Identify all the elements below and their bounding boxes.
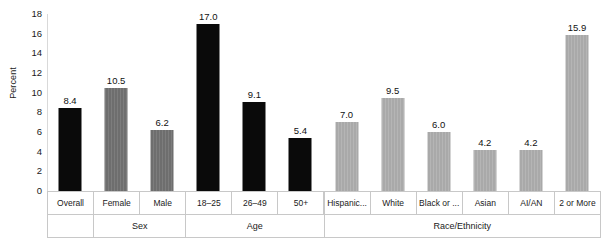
bar-slot: 15.9 — [554, 14, 600, 191]
category-cell: Female — [93, 191, 140, 215]
category-axis-table: OverallFemaleMale18–2526–4950+Hispanic..… — [47, 191, 600, 238]
y-axis-tick-12: 12 — [31, 68, 42, 78]
bar[interactable] — [519, 150, 542, 191]
y-axis-tick-14: 14 — [31, 48, 42, 58]
group-cell: Race/Ethnicity — [324, 214, 602, 238]
category-cell: 50+ — [277, 191, 324, 215]
category-cell: Black or ... — [416, 191, 463, 215]
bar-value-label: 6.0 — [432, 120, 445, 130]
bar-value-label: 4.2 — [478, 138, 491, 148]
bar-value-label: 17.0 — [199, 12, 218, 22]
category-cell: Overall — [47, 191, 94, 215]
bar-slot: 4.2 — [462, 14, 508, 191]
y-axis-tick-16: 16 — [31, 29, 42, 39]
y-axis-tick-0: 0 — [37, 186, 42, 196]
bar-value-label: 7.0 — [340, 110, 353, 120]
bar[interactable] — [289, 138, 312, 191]
bar-slot: 6.2 — [139, 14, 185, 191]
category-cell: Hispanic... — [324, 191, 371, 215]
bar-value-label: 10.5 — [107, 76, 126, 86]
category-cell: 18–25 — [185, 191, 232, 215]
category-cell: AI/AN — [508, 191, 555, 215]
bar-slot: 8.4 — [47, 14, 93, 191]
plot-area: 8.410.56.217.09.15.47.09.56.04.24.215.9 — [47, 14, 600, 191]
bar[interactable] — [427, 132, 450, 191]
bar[interactable] — [335, 122, 358, 191]
category-cell: 2 or More — [554, 191, 601, 215]
bar-value-label: 9.1 — [248, 90, 261, 100]
category-cell: White — [370, 191, 417, 215]
bar-slot: 7.0 — [324, 14, 370, 191]
y-axis-title: Percent — [8, 48, 18, 118]
group-cell: Sex — [93, 214, 186, 238]
group-cell: Age — [185, 214, 324, 238]
y-axis-tick-labels: 181614121086420 — [18, 0, 42, 243]
bar[interactable] — [151, 130, 174, 191]
bar-slot: 6.0 — [416, 14, 462, 191]
bar-slot: 5.4 — [277, 14, 323, 191]
bar[interactable] — [59, 108, 82, 191]
y-axis-tick-4: 4 — [37, 147, 42, 157]
category-cell: 26–49 — [231, 191, 278, 215]
bar-value-label: 9.5 — [386, 86, 399, 96]
y-axis-tick-6: 6 — [37, 127, 42, 137]
bar[interactable] — [381, 98, 404, 191]
y-axis-tick-18: 18 — [31, 9, 42, 19]
bar-slot: 9.5 — [370, 14, 416, 191]
bar[interactable] — [565, 35, 588, 191]
bar-chart: Percent 181614121086420 8.410.56.217.09.… — [0, 0, 609, 243]
y-axis-tick-8: 8 — [37, 107, 42, 117]
bar-value-label: 4.2 — [524, 138, 537, 148]
bar-value-label: 5.4 — [294, 126, 307, 136]
y-axis-tick-10: 10 — [31, 88, 42, 98]
bar[interactable] — [197, 24, 220, 191]
y-axis-tick-2: 2 — [37, 166, 42, 176]
group-cell — [47, 214, 94, 238]
bar-slot: 9.1 — [231, 14, 277, 191]
bar-slot: 4.2 — [508, 14, 554, 191]
bar-value-label: 15.9 — [568, 23, 587, 33]
bar[interactable] — [473, 150, 496, 191]
bar-value-label: 8.4 — [63, 96, 76, 106]
category-cell: Male — [139, 191, 186, 215]
bar-slot: 10.5 — [93, 14, 139, 191]
bar[interactable] — [243, 102, 266, 191]
bar-slot: 17.0 — [185, 14, 231, 191]
category-cell: Asian — [462, 191, 509, 215]
bar[interactable] — [105, 88, 128, 191]
bar-value-label: 6.2 — [156, 118, 169, 128]
